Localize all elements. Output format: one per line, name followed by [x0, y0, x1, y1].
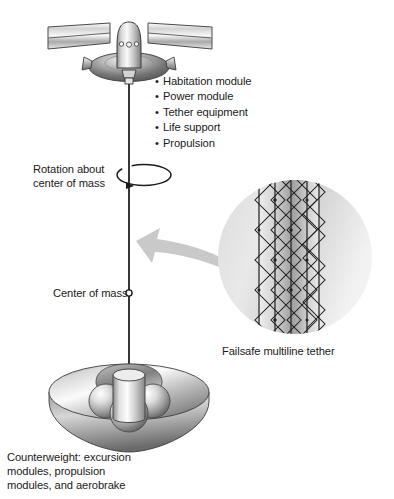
- module-list-item: •Propulsion: [155, 136, 251, 151]
- module-label: Life support: [163, 121, 220, 133]
- bullet-icon: •: [155, 89, 163, 104]
- module-label: Propulsion: [163, 137, 215, 149]
- module-label: Habitation module: [163, 75, 251, 87]
- capsule-window-icon: [119, 42, 138, 47]
- module-label: Power module: [163, 90, 233, 102]
- counterweight-caption: Counterweight: excursion modules, propul…: [7, 451, 131, 493]
- tether-spacecraft-diagram: •Habitation module •Power module •Tether…: [0, 0, 394, 499]
- tether-magnifier-callout: [136, 170, 372, 344]
- rotation-arrow-icon: [117, 165, 171, 190]
- module-list-item: •Tether equipment: [155, 105, 251, 120]
- module-list-item: •Habitation module: [155, 74, 251, 89]
- center-of-mass-label: Center of mass: [53, 287, 127, 301]
- bullet-icon: •: [155, 136, 163, 151]
- tether-attachment: [122, 70, 136, 84]
- propulsion-cylinder: [113, 369, 145, 423]
- magnifier-contents: [255, 170, 325, 344]
- counterweight-assembly: [49, 364, 209, 452]
- thruster-left: [82, 57, 92, 70]
- module-label: Tether equipment: [163, 106, 248, 118]
- thruster-right: [166, 57, 176, 70]
- module-list-item: •Life support: [155, 120, 251, 135]
- solar-panel-left: [48, 23, 110, 49]
- spacecraft-module-list: •Habitation module •Power module •Tether…: [155, 74, 251, 151]
- crew-capsule: [117, 22, 141, 68]
- bullet-icon: •: [155, 120, 163, 135]
- solar-panel-right: [148, 23, 212, 49]
- bullet-icon: •: [155, 105, 163, 120]
- bullet-icon: •: [155, 74, 163, 89]
- rotation-label: Rotation about center of mass: [33, 163, 105, 190]
- failsafe-tether-caption: Failsafe multiline tether: [222, 345, 335, 359]
- module-list-item: •Power module: [155, 89, 251, 104]
